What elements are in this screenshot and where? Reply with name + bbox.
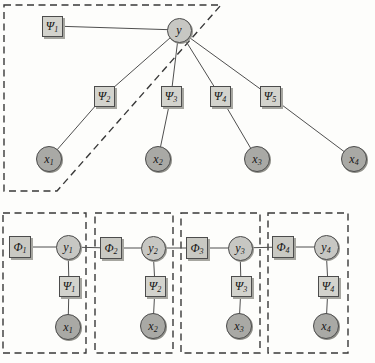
node-subscript: 3 [173, 96, 177, 104]
node-b_x3: x3 [226, 313, 252, 339]
node-psi5: Ψ5 [260, 86, 281, 107]
node-subscript: 3 [200, 248, 204, 256]
node-subscript: 1 [71, 286, 75, 294]
node-psi4: Ψ4 [210, 86, 231, 107]
node-y1: y1 [56, 235, 81, 260]
node-b_x4: x4 [313, 313, 339, 339]
node-subscript: 4 [222, 96, 226, 104]
node-subscript: 3 [258, 159, 262, 167]
node-subscript: 1 [54, 26, 58, 34]
node-subscript: 4 [355, 159, 359, 167]
node-subscript: 4 [327, 247, 331, 255]
node-y: y [167, 18, 192, 43]
node-subscript: 2 [106, 96, 110, 104]
node-phi2: Φ2 [100, 237, 122, 259]
node-label: y [176, 24, 181, 36]
node-label: Φ [104, 242, 113, 254]
node-x3: x3 [244, 146, 270, 172]
node-psi2: Ψ2 [94, 86, 115, 107]
node-subscript: 2 [159, 159, 163, 167]
node-subscript: 5 [272, 96, 276, 104]
node-label: Ψ [98, 90, 106, 102]
node-psi1: Ψ1 [42, 16, 63, 37]
edge-psi1-y [52, 26, 179, 30]
node-subscript: 2 [157, 286, 161, 294]
node-b_psi3: Ψ3 [231, 276, 252, 297]
node-label: Ψ [214, 90, 222, 102]
node-x2: x2 [145, 146, 171, 172]
node-x4: x4 [341, 146, 367, 172]
node-subscript: 1 [50, 159, 54, 167]
node-label: Φ [276, 241, 285, 253]
node-label: Ψ [149, 280, 157, 292]
node-label: Ψ [264, 90, 272, 102]
node-label: Ψ [46, 20, 54, 32]
edge-layer [0, 0, 375, 363]
node-subscript: 1 [69, 247, 73, 255]
factor-graph-figure: Ψ1yΨ2Ψ3Ψ4Ψ5x1x2x3x4Φ1y1Ψ1x1Φ2y2Ψ2x2Φ3y3Ψ… [0, 0, 375, 363]
node-b_psi4: Ψ4 [318, 276, 339, 297]
node-label: Ψ [165, 90, 173, 102]
node-subscript: 4 [286, 247, 290, 255]
node-label: Φ [190, 242, 199, 254]
node-label: Ψ [322, 280, 330, 292]
node-subscript: 3 [241, 248, 245, 256]
node-phi4: Φ4 [272, 236, 294, 258]
node-b_psi1: Ψ1 [59, 276, 80, 297]
node-label: Ψ [63, 280, 71, 292]
node-label: Φ [13, 241, 22, 253]
node-y3: y3 [228, 236, 253, 261]
node-subscript: 1 [23, 247, 27, 255]
node-label: Ψ [235, 280, 243, 292]
node-y4: y4 [314, 235, 339, 260]
node-b_x1: x1 [55, 314, 81, 340]
node-b_psi2: Ψ2 [145, 276, 166, 297]
node-b_x2: x2 [140, 313, 166, 339]
node-phi3: Φ3 [186, 237, 208, 259]
node-subscript: 4 [330, 286, 334, 294]
node-subscript: 2 [114, 248, 118, 256]
node-x1: x1 [36, 146, 62, 172]
node-subscript: 2 [154, 248, 158, 256]
node-y2: y2 [141, 236, 166, 261]
node-psi3: Ψ3 [161, 86, 182, 107]
edge-psi5-x4 [270, 96, 354, 159]
node-subscript: 3 [243, 286, 247, 294]
node-subscript: 4 [327, 326, 331, 334]
node-subscript: 2 [154, 326, 158, 334]
node-subscript: 3 [240, 326, 244, 334]
node-phi1: Φ1 [9, 236, 31, 258]
node-subscript: 1 [69, 327, 73, 335]
